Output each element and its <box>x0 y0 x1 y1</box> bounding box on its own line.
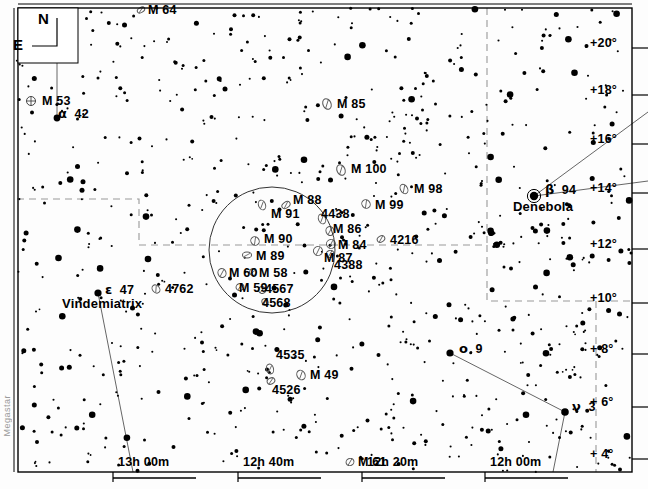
compass-east-label: E <box>13 36 23 53</box>
star-label-flam-9: ο 9 <box>459 341 483 356</box>
dso-label-4568: 4568 <box>262 296 291 310</box>
ra-tick-1220: 12h 20m <box>367 455 418 469</box>
dso-label-4762: 4762 <box>165 282 194 296</box>
dso-label-m-85: M 85 <box>337 97 366 111</box>
dso-label-m-58: M 58 <box>259 266 288 280</box>
dec-tick-10: +10° <box>590 291 617 305</box>
dso-label-4526: 4526 <box>272 383 301 397</box>
ra-tick-1300: 13h 00m <box>118 455 169 469</box>
sky-canvas <box>0 0 648 489</box>
dec-tick-12: +12° <box>590 237 617 251</box>
dec-tick-16: +16° <box>590 132 617 146</box>
dso-label-m-100: M 100 <box>351 162 387 176</box>
dso-label-m-59: M 59 <box>239 281 268 295</box>
star-proper-name-vindemiatrix: Vindemiatrix <box>62 296 142 311</box>
dso-label-m-84: M 84 <box>338 238 367 252</box>
star-label-vindemiatrix: ε 47 <box>105 282 134 297</box>
dso-label-4216: 4216 <box>390 233 419 247</box>
dso-label-m-91: M 91 <box>271 207 300 221</box>
dec-tick-6: + 6° <box>590 395 614 409</box>
dso-label-m-89: M 89 <box>256 249 285 263</box>
dec-tick-8: + 8° <box>590 342 614 356</box>
star-proper-name-denebola: Denebola <box>513 199 573 214</box>
dec-tick-14: +14° <box>590 181 617 195</box>
ra-tick-1240: 12h 40m <box>243 455 294 469</box>
dso-label-m-86: M 86 <box>333 222 362 236</box>
dso-label-4438: 4438 <box>321 207 350 221</box>
dso-label-4388: 4388 <box>334 258 363 272</box>
star-chart: Megastar M 64M 53M 85M 100M 98M 99M 88M … <box>0 0 648 489</box>
star-label-denebola: β 94 <box>545 182 576 197</box>
dec-tick-4: + 4° <box>590 447 614 461</box>
dso-label-m-60: M 60 <box>229 266 258 280</box>
dso-label-m-99: M 99 <box>375 198 404 212</box>
dso-label-4535: 4535 <box>276 348 305 362</box>
ra-tick-1200: 12h 00m <box>490 455 541 469</box>
dso-label-m-98: M 98 <box>414 182 443 196</box>
star-label-flam-42: α 42 <box>58 106 89 121</box>
dso-label-m-64: M 64 <box>148 3 177 17</box>
megastar-watermark: Megastar <box>2 395 12 437</box>
dso-label-m-90: M 90 <box>264 232 293 246</box>
dso-label-m-88: M 88 <box>293 193 322 207</box>
dec-tick-18: +18° <box>590 83 617 97</box>
dso-label-4567: 4567 <box>265 282 294 296</box>
dec-tick-20: +20° <box>590 36 617 50</box>
compass-north-label: N <box>38 10 49 27</box>
dso-label-m-49: M 49 <box>310 368 339 382</box>
